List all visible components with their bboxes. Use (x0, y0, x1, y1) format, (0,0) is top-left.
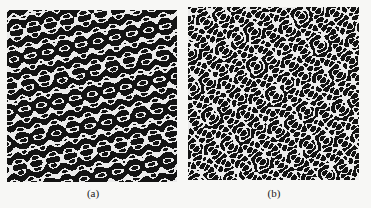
figure-panel-b (188, 7, 359, 180)
pattern-image-b (188, 7, 359, 180)
panel-label-a: (a) (73, 187, 113, 199)
pattern-image-a (7, 10, 177, 182)
figure-panel-a (7, 10, 177, 182)
panel-label-b: (b) (254, 187, 294, 199)
